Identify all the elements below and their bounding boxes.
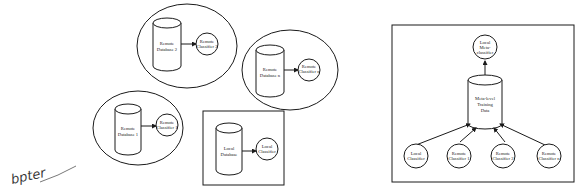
svg-text:Classifier 2: Classifier 2 [492,156,514,161]
svg-text:Classifier 1: Classifier 1 [156,125,178,130]
svg-text:Database 1: Database 1 [118,132,139,137]
remote-database-2-label: Remote [160,41,174,46]
svg-text:Classifier n: Classifier n [538,156,560,161]
svg-text:Remote: Remote [121,126,135,131]
distributed-learning-diagram: Remote Database 2 Remote Classifier 2 Re… [0,0,576,191]
svg-text:Database n: Database n [260,73,281,78]
svg-text:Database 2: Database 2 [157,47,178,52]
remote-site-1: Remote Database 1 Remote Classifier 1 [93,91,183,165]
svg-text:Training: Training [477,102,493,107]
svg-text:bpter: bpter [10,165,49,187]
handwritten-annotation: bpter [10,165,76,187]
svg-text:Classifier 2: Classifier 2 [196,44,218,49]
svg-text:Classifier: Classifier [258,149,276,154]
svg-text:classifier: classifier [477,50,494,55]
svg-text:Local: Local [224,146,235,151]
svg-text:Classifier n: Classifier n [298,69,320,74]
svg-text:Data: Data [481,108,490,113]
svg-text:Classifier 1: Classifier 1 [448,156,470,161]
svg-text:Database: Database [221,152,238,157]
remote-site-n: Remote Database n Remote Classifier n [242,30,338,110]
meta-learning-figure: Local Meta- classifier Meta-level Traini… [392,25,574,182]
local-site: Local Database Local Classifier [203,111,284,185]
svg-text:Meta-level: Meta-level [475,96,496,101]
remote-site-2: Remote Database 2 Remote Classifier 2 [137,4,237,88]
svg-text:Classifier: Classifier [407,156,425,161]
svg-text:Remote: Remote [263,67,277,72]
